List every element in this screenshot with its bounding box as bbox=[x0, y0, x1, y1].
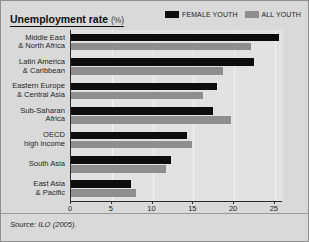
x-axis-tick-label: 10 bbox=[147, 204, 155, 213]
source-divider bbox=[1, 213, 309, 214]
category-label: East Asia& Pacific bbox=[1, 177, 68, 201]
category-label-line: & Pacific bbox=[35, 189, 65, 198]
legend-swatch-female-youth bbox=[165, 11, 179, 18]
bar-female-youth bbox=[71, 107, 213, 115]
x-axis-tick-label: 15 bbox=[188, 204, 196, 213]
legend-item: FEMALE YOUTH bbox=[165, 11, 238, 18]
category-label: Eastern Europe& Central Asia bbox=[1, 79, 68, 103]
bar-group bbox=[71, 128, 283, 152]
chart-header: Unemployment rate (%) FEMALE YOUTHALL YO… bbox=[1, 7, 309, 29]
legend-label: FEMALE YOUTH bbox=[182, 11, 238, 18]
plot-area bbox=[70, 30, 283, 201]
bar-all-youth bbox=[71, 189, 136, 197]
x-axis-tick-label: 20 bbox=[229, 204, 237, 213]
bar-rows bbox=[71, 30, 283, 201]
x-axis-line bbox=[70, 201, 282, 202]
category-label: Latin America& Caribbean bbox=[1, 54, 68, 78]
bar-all-youth bbox=[71, 116, 231, 124]
category-label-line: & Central Asia bbox=[17, 91, 65, 100]
bar-all-youth bbox=[71, 141, 192, 149]
chart-title-unit: (%) bbox=[111, 15, 124, 25]
bar-group bbox=[71, 177, 283, 201]
category-label: OECDhigh income bbox=[1, 128, 68, 152]
x-axis-tick-label: 0 bbox=[68, 204, 72, 213]
page-title: Unemployment rate (%) bbox=[10, 13, 124, 27]
category-label-line: Africa bbox=[46, 115, 65, 124]
bar-female-youth bbox=[71, 156, 171, 164]
bar-female-youth bbox=[71, 180, 131, 188]
bar-all-youth bbox=[71, 43, 251, 51]
category-axis-labels: Middle East& North AfricaLatin America& … bbox=[1, 30, 68, 201]
category-label: Sub-SaharanAfrica bbox=[1, 103, 68, 127]
bar-all-youth bbox=[71, 92, 203, 100]
legend-item: ALL YOUTH bbox=[245, 11, 301, 18]
category-label-line: South Asia bbox=[29, 160, 65, 169]
bar-all-youth bbox=[71, 67, 223, 75]
source-note: Source: ILO (2005). bbox=[10, 220, 77, 229]
x-axis-tick-label: 5 bbox=[109, 204, 113, 213]
bar-female-youth bbox=[71, 132, 187, 140]
bar-group bbox=[71, 54, 283, 78]
bar-female-youth bbox=[71, 34, 279, 42]
title-wrap: Unemployment rate (%) bbox=[10, 9, 124, 27]
chart-figure: Unemployment rate (%) FEMALE YOUTHALL YO… bbox=[0, 0, 309, 242]
bar-female-youth bbox=[71, 58, 254, 66]
category-label-line: & North Africa bbox=[18, 42, 65, 51]
category-label: Middle East& North Africa bbox=[1, 30, 68, 54]
x-axis-tick-label: 25 bbox=[270, 204, 278, 213]
bar-female-youth bbox=[71, 83, 217, 91]
legend-swatch-all-youth bbox=[245, 11, 259, 18]
category-label-line: & Caribbean bbox=[23, 67, 65, 76]
category-label-line: high income bbox=[24, 140, 65, 149]
bar-all-youth bbox=[71, 165, 166, 173]
chart-title-text: Unemployment rate bbox=[10, 13, 108, 25]
chart-legend: FEMALE YOUTHALL YOUTH bbox=[165, 11, 301, 18]
bar-group bbox=[71, 103, 283, 127]
bar-group bbox=[71, 30, 283, 54]
bar-group bbox=[71, 79, 283, 103]
bar-group bbox=[71, 152, 283, 176]
category-label: South Asia bbox=[1, 152, 68, 176]
legend-label: ALL YOUTH bbox=[262, 11, 301, 18]
